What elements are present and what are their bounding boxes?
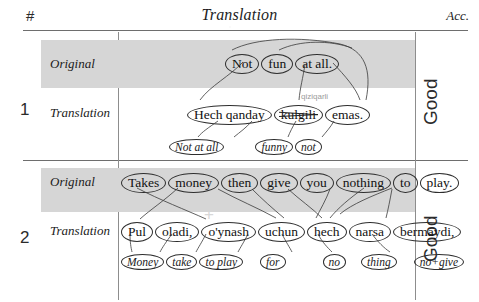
correction-annotation: qiziqarli [301,92,328,101]
token: you [300,174,334,192]
token: then [221,174,258,192]
token: hech [307,223,346,241]
gloss-token: Not at all [169,140,224,154]
gloss-token: funny [255,140,293,154]
token-struck-text: kulgili [281,107,316,122]
row-number-1: 1 [20,100,29,120]
token: fun [261,55,293,73]
token-struck: kulgili [274,106,323,124]
row-2-original-label: Original [50,174,95,190]
row-1-translation-tokens: Hech qandaykulgiliemas. [186,105,371,124]
token: uchun [258,223,305,241]
gloss-token: Money [121,255,164,269]
token: oladi, [155,223,199,241]
row-1-gloss-tokens: Not at all funnynot [168,137,323,155]
annotation-table-page: # Translation Acc. 1 2 Original Translat… [0,0,479,302]
row-1-original-label: Original [50,56,95,72]
token: nothing [336,174,391,192]
row-2-translation-label: Translation [50,223,110,239]
token: Not [225,55,259,73]
token: bermaydi, [393,223,461,241]
gloss-token: no+give [414,255,464,269]
token: money [168,174,219,192]
row-1-original-tokens: Notfunat all. [224,54,340,73]
row-2-translation-tokens: Puloladi,o'ynashuchunhechnarsabermaydi, [120,222,462,241]
row-number-2: 2 [20,228,29,248]
token: Hech qanday [187,106,272,124]
token: Pul [121,223,153,241]
token: Takes [121,174,166,192]
table-header: # Translation Acc. [0,0,479,31]
token: to [393,174,418,192]
header-divider [23,30,468,31]
gloss-token: to play [199,255,243,269]
row-2-original-tokens: Takesmoneythengiveyounothingtoplay. [120,173,460,192]
gloss-token: take [166,255,197,269]
gloss-token: not [295,140,322,154]
row-divider [23,160,468,161]
gloss-token: no [323,255,347,269]
row-1-accuracy-value: Good [420,69,442,125]
column-header-translation: Translation [0,6,479,24]
gloss-token: for [260,255,285,269]
column-header-accuracy: Acc. [446,8,469,24]
plus-watermark: + [204,205,214,225]
gloss-token: thing [361,255,397,269]
token: o'ynash [201,223,256,241]
token: narsa [349,223,391,241]
row-1-translation-label: Translation [50,105,110,121]
token: emas. [325,106,370,124]
row-2-gloss-tokens: Moneytaketo play for no thing no+give [120,252,465,270]
token: give [260,174,297,192]
token: play. [420,174,460,192]
token: at all. [295,55,339,73]
